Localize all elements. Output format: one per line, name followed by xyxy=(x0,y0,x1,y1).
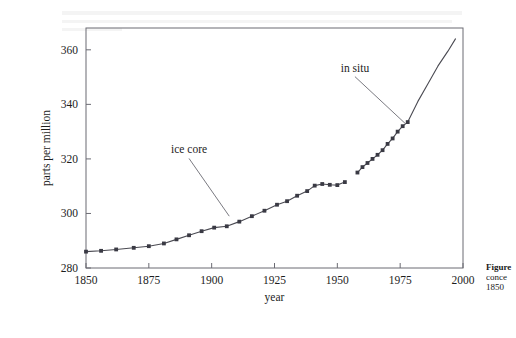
data-point-marker xyxy=(335,183,339,187)
chart-annotations: ice corein situ xyxy=(171,62,405,217)
data-point-marker xyxy=(212,226,216,230)
data-point-marker xyxy=(320,182,324,186)
x-tick-label: 1975 xyxy=(389,274,412,286)
data-series-markers xyxy=(84,120,410,253)
data-point-marker xyxy=(237,220,241,224)
y-tick-label: 300 xyxy=(61,207,79,219)
data-point-marker xyxy=(99,249,103,253)
data-point-marker xyxy=(200,229,204,233)
data-point-marker xyxy=(376,153,380,157)
y-axis-title: parts per million xyxy=(40,110,53,186)
annotation-leader-line xyxy=(355,77,405,124)
data-point-marker xyxy=(328,183,332,187)
data-point-marker xyxy=(391,137,395,141)
data-point-marker xyxy=(147,244,151,248)
figure-caption: Figure conce 1850 xyxy=(486,262,516,292)
data-point-marker xyxy=(371,157,375,161)
data-point-marker xyxy=(305,189,309,193)
data-point-marker xyxy=(343,180,347,184)
annotation-label: ice core xyxy=(171,143,207,155)
data-point-marker xyxy=(401,124,405,128)
data-point-marker xyxy=(406,120,410,124)
x-tick-label: 1925 xyxy=(263,274,286,286)
data-point-marker xyxy=(386,142,390,146)
y-tick-label: 340 xyxy=(61,98,79,110)
caption-line-3: 1850 xyxy=(486,282,516,292)
x-tick-label: 2000 xyxy=(452,274,475,286)
data-point-marker xyxy=(263,209,267,213)
data-point-marker xyxy=(361,165,365,169)
series-line xyxy=(357,122,407,172)
data-point-marker xyxy=(250,214,254,218)
y-tick-label: 280 xyxy=(61,262,79,274)
data-point-marker xyxy=(313,184,317,188)
data-point-marker xyxy=(225,224,229,228)
y-tick-label: 320 xyxy=(61,153,79,165)
data-point-marker xyxy=(162,242,166,246)
data-point-marker xyxy=(381,148,385,152)
y-tick-label: 360 xyxy=(61,44,79,56)
data-point-marker xyxy=(396,130,400,134)
x-axis-tick-labels: 1850187519001925195019752000 xyxy=(75,274,475,286)
data-point-marker xyxy=(84,250,88,254)
annotation-label: in situ xyxy=(341,62,370,74)
data-point-marker xyxy=(132,246,136,250)
data-point-marker xyxy=(295,194,299,198)
data-point-marker xyxy=(366,161,370,165)
annotation-leader-line xyxy=(189,158,229,216)
plot-frame xyxy=(86,28,463,268)
series-line xyxy=(408,39,456,122)
x-tick-label: 1900 xyxy=(200,274,223,286)
x-tick-label: 1875 xyxy=(137,274,160,286)
data-point-marker xyxy=(114,248,118,252)
x-axis-title: year xyxy=(265,291,285,304)
data-point-marker xyxy=(187,233,191,237)
caption-line-1: Figure xyxy=(486,262,516,272)
axis-ticks xyxy=(86,50,463,268)
y-axis-tick-labels: 280300320340360 xyxy=(61,44,79,274)
data-point-marker xyxy=(175,237,179,241)
data-point-marker xyxy=(285,199,289,203)
x-tick-label: 1950 xyxy=(326,274,349,286)
data-point-marker xyxy=(275,203,279,207)
caption-line-2: conce xyxy=(486,272,516,282)
data-series-lines xyxy=(86,39,455,252)
x-tick-label: 1850 xyxy=(75,274,98,286)
data-point-marker xyxy=(356,171,360,175)
